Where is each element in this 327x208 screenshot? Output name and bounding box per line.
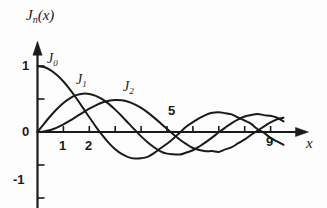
plot-canvas (0, 0, 327, 208)
curve-j2 (38, 100, 284, 152)
y-axis-title-base: J (26, 7, 33, 23)
curve-j0 (38, 66, 284, 159)
curves-group (38, 66, 284, 159)
curve-label-j0-subscript: 0 (53, 58, 58, 68)
curve-label-j2: J2 (123, 80, 134, 94)
x-tick-label-1: 1 (59, 139, 66, 152)
y-axis-title-tail: (x) (38, 7, 55, 23)
y-axis-title-subscript: n (33, 14, 38, 25)
x-tick-label-9: 9 (266, 135, 273, 148)
curve-label-j1-subscript: 1 (82, 79, 87, 89)
y-axis-arrowhead (33, 41, 42, 55)
x-tick-label-5: 5 (168, 104, 175, 117)
y-axis-title: Jn(x) (26, 8, 54, 23)
x-tick-label-2: 2 (85, 139, 92, 152)
bessel-function-chart: Jn(x) x 1 0 -1 1 2 5 9 J0 J1 J2 (0, 0, 327, 208)
curve-label-j0: J0 (47, 52, 58, 66)
curve-label-j1: J1 (76, 73, 87, 87)
y-tick-label-neg1: -1 (13, 173, 24, 186)
curve-label-j2-subscript: 2 (129, 86, 134, 96)
y-tick-label-0: 0 (22, 125, 29, 138)
x-axis-title: x (306, 136, 313, 151)
y-tick-label-1: 1 (22, 59, 29, 72)
